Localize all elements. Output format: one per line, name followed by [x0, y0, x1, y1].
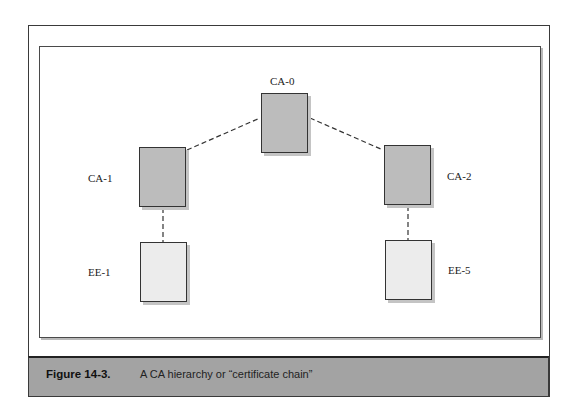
- edge-ca0-ca1: [187, 118, 260, 150]
- node-label-ca1: CA-1: [88, 172, 112, 184]
- edge-ca0-ca2: [310, 118, 383, 150]
- edge-layer: [0, 0, 574, 408]
- node-ca0: [261, 93, 308, 153]
- figure-caption-bar: Figure 14-3. A CA hierarchy or “certific…: [28, 356, 549, 397]
- node-label-ca2: CA-2: [447, 170, 471, 182]
- node-label-ca0: CA-0: [270, 75, 294, 87]
- figure-caption-text: A CA hierarchy or “certificate chain”: [140, 368, 312, 380]
- node-ca2: [384, 145, 431, 205]
- node-ee5: [385, 240, 432, 300]
- node-label-ee1: EE-1: [88, 266, 111, 278]
- node-ee1: [140, 242, 187, 302]
- node-ca1: [139, 147, 186, 207]
- figure-number: Figure 14-3.: [46, 368, 111, 380]
- node-label-ee5: EE-5: [448, 264, 471, 276]
